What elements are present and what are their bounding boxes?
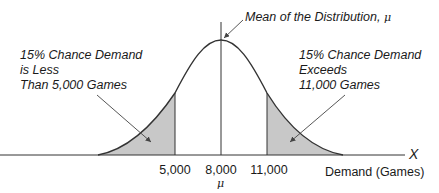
- mean-annotation-text: Mean of the Distribution,: [245, 10, 384, 24]
- x-axis-symbol: X: [409, 147, 418, 162]
- left-tail-line3: Than 5,000 Games: [20, 78, 142, 93]
- right-tail-line1: 15% Chance Demand: [299, 48, 421, 63]
- tick-5000: 5,000: [150, 163, 200, 177]
- left-tail-annotation: 15% Chance Demand is Less Than 5,000 Gam…: [20, 48, 142, 93]
- mean-arrow: [224, 20, 243, 38]
- left-tail-arrow: [97, 95, 151, 142]
- tick-mu: μ: [217, 177, 224, 190]
- x-axis-label: Demand (Games): [325, 165, 424, 180]
- left-tail-line2: is Less: [20, 63, 142, 78]
- right-tail-shade: [267, 93, 343, 155]
- mu-symbol: μ: [384, 11, 391, 24]
- right-tail-arrow: [290, 95, 345, 142]
- right-tail-annotation: 15% Chance Demand Exceeds 11,000 Games: [299, 48, 421, 93]
- left-tail-line1: 15% Chance Demand: [20, 48, 142, 63]
- left-tail-shade: [98, 93, 175, 155]
- right-tail-line2: Exceeds: [299, 63, 421, 78]
- tick-8000: 8,000: [196, 163, 246, 177]
- mean-annotation: Mean of the Distribution, μ: [245, 10, 391, 25]
- right-tail-line3: 11,000 Games: [299, 78, 421, 93]
- tick-11000: 11,000: [244, 163, 294, 177]
